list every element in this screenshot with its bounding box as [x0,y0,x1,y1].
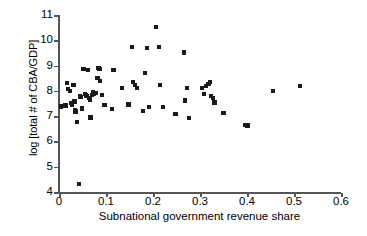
y-tick-label: 8 [35,85,53,97]
data-point [110,107,114,111]
y-tick-mark [54,66,58,68]
x-tick-label: 0.6 [321,196,361,208]
data-point [77,182,81,186]
data-point [141,109,145,113]
data-point [94,91,98,95]
y-tick-mark [54,192,58,194]
data-point [130,45,134,49]
data-point [187,116,191,120]
y-tick-mark [54,91,58,93]
data-point [73,109,77,113]
data-point [161,105,165,109]
plot-area [59,15,341,192]
data-point [143,71,147,75]
data-point [59,104,63,108]
x-tick-label: 0 [39,196,79,208]
data-point [298,84,302,88]
data-point [80,106,84,110]
data-point [173,112,177,116]
data-point [157,45,161,49]
data-point [88,115,92,119]
data-point [183,98,187,102]
data-point [71,83,75,87]
scatter-plot-figure: log [total # of CBA/GDP] 4567891011 00.1… [0,0,367,236]
x-tick-label: 0.1 [86,196,126,208]
y-tick-label: 6 [35,135,53,147]
y-tick-mark [54,116,58,118]
data-point [185,86,189,90]
y-tick-label: 11 [35,9,53,21]
data-point [65,81,69,85]
data-point [147,105,151,109]
data-point [211,96,215,100]
data-point [72,99,76,103]
y-tick-label: 10 [35,34,53,46]
x-axis-label: Subnational government revenue share [58,210,341,222]
data-point [97,67,101,71]
data-point [145,46,149,50]
data-point [120,86,124,90]
data-point [88,97,92,101]
data-point [111,68,115,72]
data-point [135,86,139,90]
data-point [182,50,186,54]
y-tick-mark [54,141,58,143]
data-point [126,102,130,106]
data-point [98,79,102,83]
y-tick-mark [54,40,58,42]
data-point [245,123,249,127]
data-point [271,89,275,93]
y-tick-label: 7 [35,110,53,122]
data-point [81,67,85,71]
data-point [63,103,67,107]
data-point [102,103,106,107]
data-point [86,68,90,72]
x-tick-label: 0.4 [227,196,267,208]
y-tick-mark [54,15,58,17]
x-tick-label: 0.3 [180,196,220,208]
x-tick-label: 0.5 [274,196,314,208]
y-tick-label: 9 [35,60,53,72]
data-point [208,80,212,84]
y-tick-label: 5 [35,161,53,173]
y-tick-mark [54,167,58,169]
data-point [154,25,158,29]
y-axis-tick-labels: 4567891011 [33,15,53,192]
data-point [221,111,225,115]
data-point [158,83,162,87]
data-point [100,93,104,97]
data-point [212,100,216,104]
data-point [202,92,206,96]
data-point [75,120,79,124]
data-point [68,89,72,93]
x-tick-label: 0.2 [133,196,173,208]
